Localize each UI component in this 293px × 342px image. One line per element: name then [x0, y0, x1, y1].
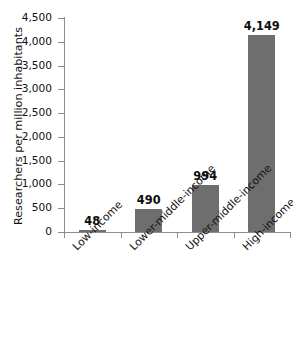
x-tick: [121, 233, 122, 238]
x-tick: [234, 233, 235, 238]
bar[interactable]: [248, 35, 275, 232]
y-tick-label: 1,000: [8, 177, 52, 189]
y-tick: [58, 113, 64, 114]
y-axis-line: [64, 17, 65, 233]
y-tick-label: 1,500: [8, 154, 52, 166]
y-tick: [58, 208, 64, 209]
y-tick-label: 4,000: [8, 35, 52, 47]
y-tick-label: 2,500: [8, 106, 52, 118]
y-tick: [58, 66, 64, 67]
bar-value-label: 4,149: [232, 19, 292, 33]
x-tick: [177, 233, 178, 238]
y-tick: [58, 161, 64, 162]
y-tick-label: 500: [8, 201, 52, 213]
y-tick-label: 4,500: [8, 11, 52, 23]
y-tick: [58, 18, 64, 19]
x-tick: [64, 233, 65, 238]
y-tick: [58, 184, 64, 185]
bar-chart: Researchers per million inhabitants 0500…: [0, 0, 293, 342]
y-tick-label: 2,000: [8, 130, 52, 142]
y-tick-label: 3,500: [8, 59, 52, 71]
y-tick-label: 3,000: [8, 82, 52, 94]
y-tick-label: 0: [8, 225, 52, 237]
x-tick: [290, 233, 291, 238]
y-tick: [58, 89, 64, 90]
y-tick: [58, 137, 64, 138]
y-tick: [58, 42, 64, 43]
